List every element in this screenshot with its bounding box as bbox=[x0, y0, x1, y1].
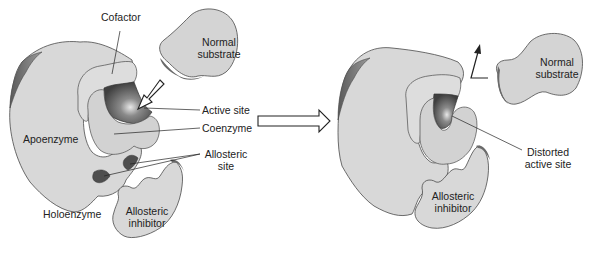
transition-arrow bbox=[258, 110, 330, 132]
label-allosteric-inhibitor-left: Allosteric inhibitor bbox=[122, 205, 172, 229]
substrate-release-arrow bbox=[471, 44, 488, 78]
label-distorted-active-site: Distorted active site bbox=[520, 146, 576, 170]
label-distorted-active-site-line1: Distorted bbox=[520, 146, 576, 158]
label-allosteric-inhibitor-right-line1: Allosteric bbox=[428, 190, 478, 202]
label-normal-substrate-left-line1: Normal bbox=[196, 36, 242, 48]
label-allosteric-inhibitor-right: Allosteric inhibitor bbox=[428, 190, 478, 214]
label-allosteric-site-line2: site bbox=[200, 160, 252, 172]
label-normal-substrate-left-line2: substrate bbox=[196, 48, 242, 60]
label-normal-substrate-right-line2: substrate bbox=[532, 68, 582, 80]
label-holoenzyme: Holoenzyme bbox=[43, 208, 101, 220]
label-allosteric-site-line1: Allosteric bbox=[200, 148, 252, 160]
label-normal-substrate-left: Normal substrate bbox=[196, 36, 242, 60]
enzyme-allosteric-inhibition-diagram: Cofactor Normal substrate Active site Co… bbox=[0, 0, 591, 253]
substrate-binding-arrow bbox=[137, 80, 164, 109]
label-coenzyme: Coenzyme bbox=[202, 122, 252, 134]
label-active-site: Active site bbox=[202, 104, 250, 116]
label-allosteric-site: Allosteric site bbox=[200, 148, 252, 172]
label-apoenzyme: Apoenzyme bbox=[23, 133, 78, 145]
label-allosteric-inhibitor-left-line2: inhibitor bbox=[122, 217, 172, 229]
label-allosteric-inhibitor-left-line1: Allosteric bbox=[122, 205, 172, 217]
label-normal-substrate-right-line1: Normal bbox=[532, 56, 582, 68]
label-cofactor: Cofactor bbox=[101, 11, 141, 23]
label-distorted-active-site-line2: active site bbox=[520, 158, 576, 170]
leader-active-site bbox=[144, 108, 200, 110]
label-normal-substrate-right: Normal substrate bbox=[532, 56, 582, 80]
label-allosteric-inhibitor-right-line2: inhibitor bbox=[428, 202, 478, 214]
